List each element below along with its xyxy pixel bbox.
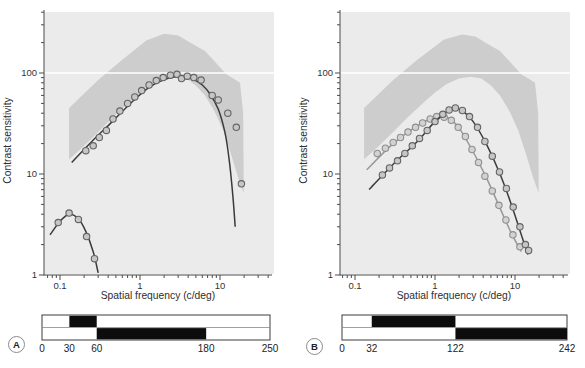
svg-text:1: 1	[328, 269, 333, 280]
scale-bar-black-segment	[97, 328, 206, 339]
data-point	[83, 148, 89, 154]
panel-label-a: A	[8, 336, 25, 353]
svg-text:0: 0	[39, 343, 45, 354]
data-point	[209, 92, 215, 98]
data-point	[90, 143, 96, 149]
data-point	[510, 232, 516, 238]
svg-text:10: 10	[322, 168, 333, 179]
data-point	[374, 150, 380, 156]
data-point	[416, 135, 422, 141]
data-point	[466, 113, 472, 119]
data-point	[382, 145, 388, 151]
data-point	[510, 204, 516, 210]
csf-figure: 1101000.1110030601802501101000.111003212…	[0, 0, 585, 368]
data-point	[55, 219, 61, 225]
scale-bar-b: 032122242	[339, 315, 576, 354]
data-point	[167, 72, 173, 78]
data-point	[124, 100, 130, 106]
data-point	[459, 107, 465, 113]
svg-text:0: 0	[339, 343, 345, 354]
scale-bar-black-segment	[69, 316, 96, 327]
data-point	[83, 233, 89, 239]
data-point	[184, 73, 190, 79]
data-point	[489, 188, 495, 194]
data-point	[496, 169, 502, 175]
data-point	[475, 159, 481, 165]
data-point	[405, 129, 411, 135]
data-point	[440, 111, 446, 117]
data-point	[455, 124, 461, 130]
data-point	[66, 210, 72, 216]
svg-text:250: 250	[262, 343, 279, 354]
csf-plot-b: 1101000.1110032122242	[317, 10, 576, 354]
data-point	[503, 217, 509, 223]
data-point	[503, 185, 509, 191]
data-point	[225, 110, 231, 116]
data-point	[432, 118, 438, 124]
data-point	[482, 173, 488, 179]
data-point	[390, 139, 396, 145]
data-point	[191, 74, 197, 80]
svg-text:100: 100	[317, 67, 333, 78]
scale-bar-a: 03060180250	[39, 315, 279, 354]
svg-text:32: 32	[366, 343, 378, 354]
scale-bar-values: 032122242	[339, 343, 576, 354]
data-point	[469, 146, 475, 152]
x-axis-title-panel-b: Spatial frequency (c/deg)	[340, 290, 568, 301]
csf-plot-a: 1101000.111003060180250	[21, 10, 279, 354]
data-point	[412, 124, 418, 130]
data-point	[96, 134, 102, 140]
svg-text:100: 100	[21, 67, 37, 78]
data-point	[474, 124, 480, 130]
data-point	[517, 224, 523, 230]
data-point	[448, 117, 454, 123]
data-point	[386, 165, 392, 171]
data-point	[146, 82, 152, 88]
data-point	[233, 124, 239, 130]
csf-figure-canvas: 1101000.1110030601802501101000.111003212…	[0, 0, 585, 368]
data-point	[409, 143, 415, 149]
scale-bar-values: 03060180250	[39, 343, 279, 354]
data-point	[496, 202, 502, 208]
data-point	[139, 87, 145, 93]
data-point	[452, 105, 458, 111]
data-point	[117, 108, 123, 114]
data-point	[198, 77, 204, 83]
svg-text:30: 30	[64, 343, 76, 354]
y-axis-title-panel-a: Contrast sensitivity	[2, 71, 13, 211]
x-axis-title-panel-a: Spatial frequency (c/deg)	[44, 290, 272, 301]
svg-text:1: 1	[32, 269, 37, 280]
data-point	[379, 172, 385, 178]
data-point	[522, 241, 528, 247]
data-point	[424, 127, 430, 133]
scale-bar-black-segment	[455, 328, 567, 339]
data-point	[132, 94, 138, 100]
panel-label-b: B	[306, 338, 323, 355]
data-point	[75, 216, 81, 222]
svg-text:242: 242	[559, 343, 576, 354]
data-point	[462, 133, 468, 139]
data-point	[397, 134, 403, 140]
data-point	[110, 116, 116, 122]
data-point	[525, 247, 531, 253]
data-point	[446, 107, 452, 113]
data-point	[103, 127, 109, 133]
data-point	[215, 97, 221, 103]
svg-text:122: 122	[447, 343, 464, 354]
svg-text:60: 60	[91, 343, 103, 354]
data-point	[238, 181, 244, 187]
svg-text:180: 180	[198, 343, 215, 354]
data-point	[489, 153, 495, 159]
y-axis-title-panel-b: Contrast sensitivity	[298, 71, 309, 211]
data-point	[419, 120, 425, 126]
scale-bar-black-segment	[372, 316, 456, 327]
svg-text:10: 10	[26, 168, 37, 179]
data-point	[482, 138, 488, 144]
data-point	[91, 256, 97, 262]
data-point	[153, 77, 159, 83]
data-point	[394, 158, 400, 164]
data-point	[402, 150, 408, 156]
data-point	[160, 74, 166, 80]
